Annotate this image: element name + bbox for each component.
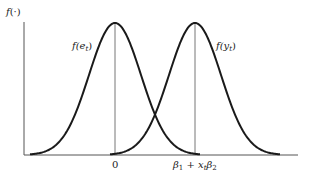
- plus-x: + x: [183, 159, 203, 170]
- tick-zero-text: 0: [112, 159, 118, 170]
- tick-label-mean-y: β1 + xtβ2: [173, 159, 217, 172]
- y-axis-label: f(·): [6, 6, 21, 17]
- curve-label-y: f(yt): [216, 40, 236, 53]
- label-close: ): [232, 40, 236, 51]
- density-diagram: [0, 0, 311, 183]
- y-label-arg: (·): [10, 6, 21, 17]
- label-close: ): [88, 40, 92, 51]
- label-arg: (y: [220, 40, 230, 51]
- curve-label-e: f(et): [72, 40, 92, 53]
- tick-label-zero: 0: [112, 159, 118, 170]
- label-arg: (e: [76, 40, 86, 51]
- beta2-sub: 2: [212, 164, 216, 172]
